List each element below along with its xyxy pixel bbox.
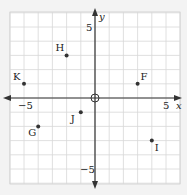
point-j (79, 110, 83, 114)
point-label-k: K (13, 71, 21, 82)
x-axis-left-arrow-icon (3, 95, 11, 101)
point-i (150, 139, 154, 143)
x-tick-label: −5 (18, 100, 33, 111)
y-tick-label: −5 (80, 164, 95, 175)
point-label-g: G (28, 127, 36, 138)
y-axis-label: y (98, 11, 105, 22)
point-h (65, 53, 69, 57)
point-k (22, 82, 26, 86)
point-g (36, 124, 40, 128)
y-axis-down-arrow-icon (92, 181, 98, 189)
point-f (136, 82, 140, 86)
point-label-h: H (56, 42, 65, 53)
y-tick-label: 5 (86, 22, 92, 33)
point-label-f: F (141, 71, 148, 82)
point-label-j: J (70, 113, 75, 124)
point-label-i: I (155, 142, 159, 153)
x-axis-label: x (176, 100, 182, 111)
x-tick-label: 5 (163, 100, 169, 111)
coordinate-plane: xy−555−5 HKFJGI (0, 0, 187, 195)
